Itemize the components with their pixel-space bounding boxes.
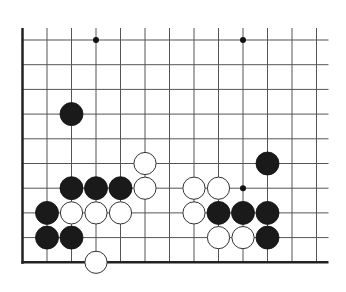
white-stone [134, 177, 156, 199]
black-stone [256, 201, 279, 224]
white-stone [134, 152, 156, 174]
black-stone [256, 226, 279, 249]
white-stone [207, 227, 229, 249]
white-stone [183, 202, 205, 224]
black-stone [232, 201, 255, 224]
white-stone [207, 177, 229, 199]
go-board [0, 0, 346, 292]
black-stone [60, 103, 83, 126]
black-stone [60, 177, 83, 200]
star-point [240, 37, 246, 43]
black-stone [109, 177, 132, 200]
white-stone [85, 251, 107, 273]
black-stone [85, 177, 108, 200]
white-stone [60, 202, 82, 224]
black-stone [36, 201, 59, 224]
black-stone [207, 201, 230, 224]
white-stone [232, 227, 254, 249]
white-stone [183, 177, 205, 199]
white-stone [109, 202, 131, 224]
black-stone [256, 152, 279, 175]
white-stone [85, 202, 107, 224]
black-stone [60, 226, 83, 249]
black-stone [36, 226, 59, 249]
star-point [93, 37, 99, 43]
star-point [240, 185, 246, 191]
